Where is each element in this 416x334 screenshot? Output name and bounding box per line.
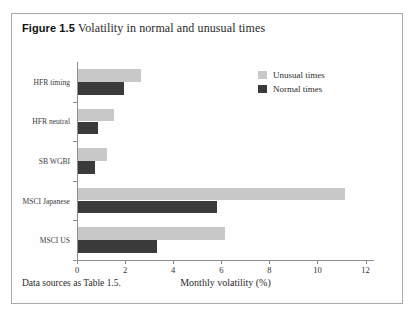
x-axis-title: Monthly volatility (%)	[77, 277, 374, 288]
legend-item: Normal times	[258, 84, 325, 94]
y-axis-tick	[73, 181, 77, 182]
x-axis-tick	[366, 260, 367, 264]
bar-normal	[78, 240, 157, 253]
x-axis-tick	[77, 260, 78, 264]
bar-unusual	[78, 188, 345, 201]
bar-unusual	[78, 69, 141, 82]
legend-swatch-icon	[258, 85, 267, 93]
x-axis-tick	[269, 260, 270, 264]
figure-caption: Volatility in normal and unusual times	[78, 21, 265, 35]
category-label: HFR neutral	[32, 117, 70, 126]
category-label: MSCI US	[40, 236, 70, 245]
legend-item: Unusual times	[258, 70, 325, 80]
source-note: Data sources as Table 1.5.	[22, 278, 121, 288]
bar-normal	[78, 82, 124, 95]
x-axis-tick	[125, 260, 126, 264]
x-axis-line	[77, 260, 374, 261]
x-axis-tick	[173, 260, 174, 264]
bar-unusual	[78, 227, 225, 240]
chart-plot-area: 024681012 HFR timingHFR neutralSB WGBIMS…	[77, 62, 374, 260]
x-axis-tick	[221, 260, 222, 264]
bar-normal	[78, 122, 98, 135]
bar-normal	[78, 201, 217, 214]
category-label: SB WGBI	[39, 157, 70, 166]
figure-panel: Figure 1.5 Volatility in normal and unus…	[11, 13, 403, 304]
bar-normal	[78, 161, 95, 174]
bar-unusual	[78, 109, 114, 122]
footer-divider	[12, 270, 402, 271]
legend-label: Unusual times	[273, 70, 325, 80]
category-label: HFR timing	[33, 77, 70, 86]
bar-unusual	[78, 148, 107, 161]
legend-label: Normal times	[273, 84, 322, 94]
y-axis-tick	[73, 102, 77, 103]
figure-title: Figure 1.5 Volatility in normal and unus…	[22, 21, 265, 36]
y-axis-tick	[73, 141, 77, 142]
x-axis-tick	[317, 260, 318, 264]
y-axis-tick	[73, 260, 77, 261]
category-label: MSCI Japanese	[23, 196, 70, 205]
chart-legend: Unusual timesNormal times	[258, 70, 325, 98]
legend-swatch-icon	[258, 71, 267, 79]
y-axis-tick	[73, 220, 77, 221]
figure-number: Figure 1.5	[22, 22, 75, 34]
